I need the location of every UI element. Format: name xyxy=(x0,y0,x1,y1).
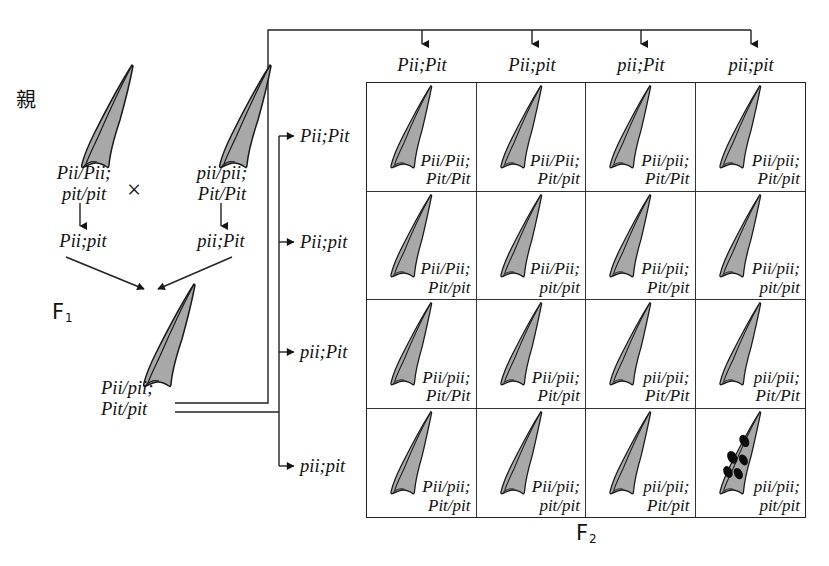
column-header-2: pii;Pit xyxy=(586,55,696,76)
punnett-cell-r1c3: Pii/pii;pit/pit xyxy=(696,192,806,301)
cell-genotype-line1: Pii/Pii; xyxy=(420,152,470,170)
cell-genotype: pii/pii;Pit/Pit xyxy=(754,369,800,406)
punnett-cell-r2c1: Pii/pii;Pit/pit xyxy=(477,300,587,409)
cell-genotype-line1: pii/pii; xyxy=(643,478,689,496)
punnett-cell-r3c2: pii/pii;Pit/pit xyxy=(586,409,696,518)
cell-genotype: Pii/Pii;Pit/pit xyxy=(420,260,470,297)
parent-left-gamete: Pii;pit xyxy=(40,231,126,252)
cell-genotype-line1: Pii/pii; xyxy=(752,152,800,170)
cell-genotype-line1: Pii/pii; xyxy=(641,260,689,278)
cell-genotype-line1: Pii/Pii; xyxy=(420,260,470,278)
cell-genotype-line2: Pit/Pit xyxy=(420,170,470,188)
cell-genotype: pii/pii;Pit/Pit xyxy=(643,369,689,406)
parent-left-leaf xyxy=(62,62,138,174)
cell-genotype: pii/pii;pit/pit xyxy=(754,478,800,515)
parent-right-genotype: pii/pii; Pit/Pit xyxy=(182,163,262,205)
figure-canvas: 親 Pii/Pii; pit/pit × pii/pii; Pit/Pit Pi… xyxy=(0,0,829,566)
parent-left-genotype: Pii/Pii; pit/pit xyxy=(44,163,124,205)
punnett-cell-r0c1: Pii/Pii;Pit/pit xyxy=(477,83,587,192)
parent-left-genotype-line2: pit/pit xyxy=(44,184,124,205)
cell-genotype-line2: pit/pit xyxy=(752,279,800,297)
punnett-cell-r1c2: Pii/pii;Pit/pit xyxy=(586,192,696,301)
cell-genotype-line2: Pit/pit xyxy=(530,170,580,188)
punnett-cell-r3c3: pii/pii;pit/pit xyxy=(696,409,806,518)
cell-genotype-line1: pii/pii; xyxy=(754,369,800,387)
cell-genotype-line2: Pit/pit xyxy=(532,387,580,405)
column-header-3: pii;pit xyxy=(696,55,806,76)
cell-genotype: Pii/pii;pit/pit xyxy=(532,478,580,515)
row-header-0: Pii;Pit xyxy=(300,126,349,147)
cell-genotype: Pii/Pii;pit/pit xyxy=(530,260,580,297)
punnett-cell-r2c2: pii/pii;Pit/Pit xyxy=(586,300,696,409)
punnett-cell-r2c3: pii/pii;Pit/Pit xyxy=(696,300,806,409)
cell-genotype-line2: Pit/pit xyxy=(752,170,800,188)
cross-symbol: × xyxy=(127,176,141,204)
f1-letter: F xyxy=(52,300,64,324)
cell-genotype-line2: pit/pit xyxy=(530,279,580,297)
cell-genotype-line2: Pit/Pit xyxy=(754,387,800,405)
f1-genotype: Pii/pii; Pit/pit xyxy=(101,378,153,420)
cell-genotype-line1: Pii/pii; xyxy=(752,260,800,278)
punnett-cell-r3c1: Pii/pii;pit/pit xyxy=(477,409,587,518)
cell-genotype-line2: Pit/pit xyxy=(641,279,689,297)
cell-genotype-line2: pit/pit xyxy=(532,497,580,515)
punnett-cell-r1c0: Pii/Pii;Pit/pit xyxy=(367,192,477,301)
parent-right-leaf xyxy=(200,62,276,174)
punnett-cell-r0c3: Pii/pii;Pit/pit xyxy=(696,83,806,192)
cell-genotype: Pii/Pii;Pit/Pit xyxy=(420,152,470,189)
parent-generation-label: 親 xyxy=(16,84,37,113)
cell-genotype-line2: Pit/pit xyxy=(422,497,470,515)
row-header-2: pii;Pit xyxy=(300,342,347,363)
cell-genotype-line1: Pii/pii; xyxy=(422,369,470,387)
punnett-square-grid: Pii/Pii;Pit/Pit Pii/Pii;Pit/pit Pii/pii;… xyxy=(366,82,806,518)
cell-genotype-line2: Pit/pit xyxy=(420,279,470,297)
cell-genotype-line1: Pii/pii; xyxy=(422,478,470,496)
punnett-cell-r0c2: Pii/pii;Pit/Pit xyxy=(586,83,696,192)
parent-right-genotype-line1: pii/pii; xyxy=(197,163,247,183)
cell-genotype-line2: Pit/Pit xyxy=(641,170,689,188)
f1-genotype-line1: Pii/pii; xyxy=(101,378,153,398)
cell-genotype: Pii/pii;Pit/Pit xyxy=(641,152,689,189)
cell-genotype: Pii/Pii;Pit/pit xyxy=(530,152,580,189)
cell-genotype: Pii/pii;Pit/pit xyxy=(641,260,689,297)
cell-genotype-line1: pii/pii; xyxy=(643,369,689,387)
f2-letter: F xyxy=(576,521,588,545)
parent-right-gamete: pii;Pit xyxy=(178,231,264,252)
punnett-cell-r3c0: Pii/pii;Pit/pit xyxy=(367,409,477,518)
f1-genotype-line2: Pit/pit xyxy=(101,399,153,420)
cell-genotype: Pii/pii;Pit/pit xyxy=(532,369,580,406)
row-header-3: pii;pit xyxy=(300,456,345,477)
f2-subscript: 2 xyxy=(589,532,597,546)
cell-genotype-line1: Pii/pii; xyxy=(532,478,580,496)
cell-genotype: Pii/pii;Pit/Pit xyxy=(422,369,470,406)
f1-subscript: 1 xyxy=(65,311,73,325)
punnett-cell-r0c0: Pii/Pii;Pit/Pit xyxy=(367,83,477,192)
column-header-1: Pii;pit xyxy=(477,55,587,76)
cell-genotype-line2: pit/pit xyxy=(754,497,800,515)
cell-genotype-line2: Pit/Pit xyxy=(643,387,689,405)
cell-genotype-line1: Pii/Pii; xyxy=(530,260,580,278)
cell-genotype-line1: Pii/pii; xyxy=(641,152,689,170)
f2-generation-label: F2 xyxy=(576,521,596,545)
column-header-0: Pii;Pit xyxy=(367,55,477,76)
parent-right-genotype-line2: Pit/Pit xyxy=(182,184,262,205)
cell-genotype-line1: Pii/pii; xyxy=(532,369,580,387)
cell-genotype: pii/pii;Pit/pit xyxy=(643,478,689,515)
cell-genotype-line1: Pii/Pii; xyxy=(530,152,580,170)
row-header-1: Pii;pit xyxy=(300,232,347,253)
cell-genotype: Pii/pii;pit/pit xyxy=(752,260,800,297)
f1-generation-label: F1 xyxy=(52,300,72,324)
punnett-cell-r2c0: Pii/pii;Pit/Pit xyxy=(367,300,477,409)
punnett-cell-r1c1: Pii/Pii;pit/pit xyxy=(477,192,587,301)
parent-left-genotype-line1: Pii/Pii; xyxy=(57,163,111,183)
cell-genotype-line1: pii/pii; xyxy=(754,478,800,496)
cell-genotype-line2: Pit/Pit xyxy=(422,387,470,405)
cell-genotype-line2: Pit/pit xyxy=(643,497,689,515)
cell-genotype: Pii/pii;Pit/pit xyxy=(422,478,470,515)
cell-genotype: Pii/pii;Pit/pit xyxy=(752,152,800,189)
f1-leaf xyxy=(124,281,200,393)
